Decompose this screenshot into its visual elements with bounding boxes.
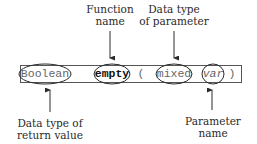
label-param-name-line2: name xyxy=(185,127,241,139)
label-param-name: Parameter name xyxy=(185,115,241,139)
label-return-type-line2: return value xyxy=(17,129,83,141)
label-return-type-line1: Data type of xyxy=(17,117,83,129)
ellipse-function-name xyxy=(94,64,130,84)
label-return-type: Data type of return value xyxy=(17,117,83,141)
ellipse-param-type xyxy=(156,64,192,84)
label-param-name-line1: Parameter xyxy=(185,115,241,127)
ellipse-return-type xyxy=(19,64,71,84)
ellipse-param-name xyxy=(202,64,224,84)
